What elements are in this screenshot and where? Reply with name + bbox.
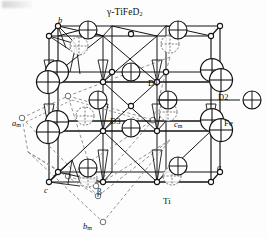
atom-ti-mid-bottom [122,119,140,137]
lattice-node-am-origin [65,93,71,99]
node-corner-bottom-b [154,179,159,184]
site-label-d3: D3 [110,117,120,126]
figure-canvas: γ-TiFeD2 b a c am bm cm β D1 D2 D3 Fe Ti [0,0,267,238]
node-d3-center [128,103,133,108]
node-col-b-low [154,128,159,133]
node-col-a-front [109,69,114,74]
element-label-ti: Ti [163,197,171,206]
lattice-node-bm-tip [100,219,106,225]
atom-ti-mid-top [122,63,140,81]
atom-fe-top-1 [79,21,97,39]
axis-label-am: am [12,119,21,128]
atom-fe-left-4 [37,121,60,144]
angle-label-beta: β [97,188,102,197]
axis-label-cm-subscript: m [178,123,183,129]
node-corner-bottom-a [100,179,105,184]
node-corner-back-tl [46,33,51,38]
atom-fe-top-2 [169,21,187,39]
node-col-a-low [100,128,105,133]
node-corner-back-bl [46,179,51,184]
atom-ti-center-left [89,91,107,109]
axis-label-c: c [44,186,48,195]
node-col-a-mid [100,79,105,84]
node-corner-back-br [208,179,213,184]
atom-fe-right-2 [210,69,233,92]
site-label-d1: D1 [148,79,158,88]
figure-title-text: γ-TiFeD [107,7,140,17]
atom-fe-bottom-1 [79,159,97,177]
node-corner-front-tr [217,23,222,28]
figure-title: γ-TiFeD2 [107,8,143,18]
figure-title-subscript: 2 [140,11,143,17]
node-d1-top [128,31,133,36]
node-corner-front-bl [55,169,60,174]
axis-label-bm-subscript: m [87,225,92,231]
axis-label-am-subscript: m [16,122,21,128]
axis-label-cm: cm [174,120,182,129]
axis-label-bm: bm [83,222,92,231]
node-col-b-front [163,69,168,74]
atom-fe-bottom-2 [169,157,187,175]
axis-label-a: a [217,163,221,172]
axis-label-b: b [58,16,62,25]
element-label-fe: Fe [224,119,233,128]
site-label-d2: D2 [218,93,228,102]
atom-ti-back-3 [76,107,94,125]
atom-d2-callout [243,91,261,109]
node-corner-back-tr [208,33,213,38]
atom-ti-back-1 [70,37,88,55]
atom-fe-left-2 [37,71,60,94]
